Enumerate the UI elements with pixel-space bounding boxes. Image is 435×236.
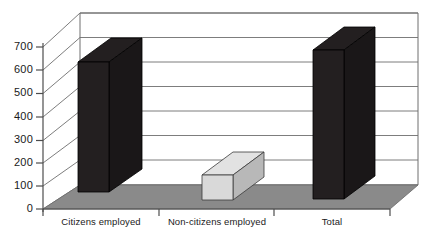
bar-total-front [313,50,344,199]
x-axis-label-non-citizens-employed: Non-citizens employed [159,216,275,227]
y-axis-label-500: 500 [0,86,33,98]
y-axis-ticks [36,47,43,209]
y-axis-label-600: 600 [0,63,33,75]
depth-line-400 [43,87,80,118]
bar-non-citizens-employed-front [202,175,233,200]
y-axis-label-100: 100 [0,179,33,191]
y-axis-label-200: 200 [0,156,33,168]
bar-citizens-employed-front [78,62,109,192]
bar-total-side [344,27,375,199]
chart-left-wall [43,13,80,209]
x-axis-label-total: Total [274,216,390,227]
y-axis-label-700: 700 [0,40,33,52]
chart-plot-area [0,0,435,236]
y-axis-label-300: 300 [0,133,33,145]
bar-total[interactable] [313,27,375,199]
x-axis-label-citizens-employed: Citizens employed [43,216,159,227]
depth-line-500 [43,62,80,94]
bar-citizens-employed[interactable] [78,38,142,192]
y-axis-label-0: 0 [0,202,33,214]
y-axis-label-400: 400 [0,110,33,122]
depth-line-300 [43,111,80,141]
bar-citizens-employed-side [109,38,142,192]
bar-chart: 700 600 500 400 300 200 100 0 Citizens e… [0,0,435,236]
x-axis-ticks [43,209,390,216]
depth-line-100 [43,160,80,186]
depth-line-200 [43,136,80,164]
